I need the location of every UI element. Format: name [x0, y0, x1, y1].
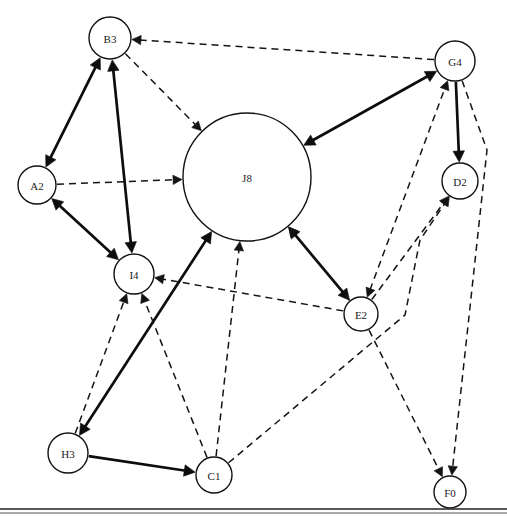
node-j8[interactable]: J8 [183, 113, 311, 241]
node-i4-label: I4 [129, 269, 139, 281]
node-e2[interactable]: E2 [344, 297, 378, 331]
node-e2-label: E2 [355, 309, 367, 321]
node-j8-label: J8 [242, 172, 252, 184]
node-d2-label: D2 [453, 176, 466, 188]
edge-c1-j8-arrowhead [234, 242, 243, 251]
edge-e2-i4-arrowhead [155, 275, 165, 284]
node-c1[interactable]: C1 [196, 457, 232, 493]
edge-h3-i4 [75, 301, 124, 433]
node-c1-label: C1 [208, 470, 221, 482]
edge-a2-j8 [57, 180, 174, 184]
edge-g4-f0-arrowhead [448, 466, 457, 475]
edge-e2-d2 [372, 202, 444, 299]
edge-b3-i4-arrowhead-reverse [108, 60, 119, 72]
edge-b3-i4-arrowhead [125, 242, 136, 254]
node-i4[interactable]: I4 [114, 254, 154, 294]
edge-h3-i4-arrowhead [119, 294, 128, 304]
edge-a2-i4 [59, 205, 112, 254]
edge-e2-f0 [369, 330, 439, 470]
node-b3-label: B3 [104, 33, 117, 45]
node-b3[interactable]: B3 [89, 17, 131, 59]
edge-e2-i4 [162, 279, 343, 311]
edge-e2-g4-arrowhead-reverse [366, 287, 375, 297]
edge-c1-i4-arrowhead [141, 294, 150, 304]
edge-h3-c1-arrowhead [183, 465, 195, 476]
edge-c1-j8 [216, 249, 239, 456]
edge-e2-g4-arrowhead [440, 81, 449, 91]
edge-e2-g4 [370, 88, 445, 290]
edge-g4-b3-arrowhead [132, 35, 141, 44]
edge-b3-a2 [50, 66, 96, 159]
edge-g4-j8 [312, 76, 429, 141]
edge-a2-j8-arrowhead [173, 175, 182, 184]
node-h3-label: H3 [61, 448, 75, 460]
edge-b3-j8 [125, 54, 196, 126]
edge-e2-f0-arrowhead [434, 467, 442, 477]
node-a2[interactable]: A2 [18, 166, 56, 204]
edge-g4-d2 [456, 82, 459, 153]
edge-layer [46, 35, 487, 476]
node-f0[interactable]: F0 [434, 476, 466, 508]
graph-canvas: B3G4A2J8D2I4E2H3C1F0 [0, 0, 507, 522]
edge-b3-i4 [113, 69, 131, 244]
node-a2-label: A2 [30, 180, 43, 192]
edge-c1-d2 [229, 203, 445, 463]
page-bottom-rule [0, 509, 507, 513]
edge-h3-c1 [89, 456, 186, 471]
graph-figure: B3G4A2J8D2I4E2H3C1F0 [0, 0, 507, 522]
edge-c1-i4 [145, 301, 207, 458]
node-g4[interactable]: G4 [435, 41, 475, 81]
node-g4-label: G4 [448, 56, 462, 68]
edge-g4-b3 [140, 40, 434, 60]
node-d2[interactable]: D2 [442, 163, 478, 199]
edge-g4-d2-arrowhead [453, 151, 464, 162]
node-layer: B3G4A2J8D2I4E2H3C1F0 [18, 17, 478, 508]
node-h3[interactable]: H3 [48, 433, 88, 473]
node-f0-label: F0 [444, 487, 456, 499]
